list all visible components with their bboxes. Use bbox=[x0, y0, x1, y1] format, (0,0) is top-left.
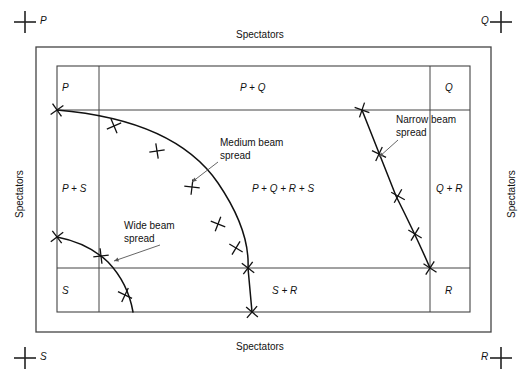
annotation-wide-beam-leader bbox=[114, 245, 160, 261]
beam-group bbox=[51, 103, 437, 318]
annotation-medium-beam-line2: spread bbox=[220, 149, 283, 162]
zone-s: S bbox=[62, 285, 69, 296]
beam-curve-narrow-marker-3 bbox=[408, 227, 421, 240]
annotation-narrow-beam-line2: spread bbox=[396, 126, 456, 139]
annotation-narrow-beam-line1: Narrow beam bbox=[396, 113, 456, 126]
corner-mark-p-label: P bbox=[40, 15, 47, 26]
annotation-wide-beam-line2: spread bbox=[124, 232, 175, 245]
beam-curve-medium-marker-2 bbox=[149, 143, 164, 158]
corner-mark-q-label: Q bbox=[481, 15, 489, 26]
annotation-narrow-beam: Narrow beamspread bbox=[396, 113, 456, 139]
cross-stroke-b bbox=[229, 241, 242, 254]
beam-curve-wide-path bbox=[57, 237, 133, 312]
zone-p: P bbox=[62, 82, 69, 93]
zone-q: Q bbox=[445, 82, 453, 93]
zone-pq: P + Q bbox=[240, 82, 265, 93]
spectators-left: Spectators bbox=[14, 170, 25, 218]
annotation-wide-beam-arrowhead bbox=[114, 258, 119, 262]
annotation-wide-beam-line1: Wide beam bbox=[124, 219, 175, 232]
zone-qr: Q + R bbox=[436, 183, 462, 194]
zone-r: R bbox=[445, 285, 452, 296]
corner-mark-r-label: R bbox=[481, 351, 488, 362]
annotation-wide-beam: Wide beamspread bbox=[124, 219, 175, 245]
zone-ps: P + S bbox=[62, 183, 86, 194]
zone-sr: S + R bbox=[272, 285, 297, 296]
beam-curve-wide bbox=[51, 231, 133, 312]
cross-stroke-b bbox=[372, 147, 386, 161]
cross-stroke-b bbox=[408, 227, 421, 240]
corner-mark-s-label: S bbox=[40, 351, 47, 362]
diagram-canvas: PP + QQP + SP + Q + R + SQ + RSS + RR Me… bbox=[0, 0, 528, 380]
spectators-right: Spectators bbox=[506, 170, 517, 218]
annotation-medium-beam-line1: Medium beam bbox=[220, 136, 283, 149]
annotation-medium-beam: Medium beamspread bbox=[220, 136, 283, 162]
beam-curve-medium-marker-4 bbox=[211, 217, 226, 232]
spectators-bottom: Spectators bbox=[236, 341, 284, 352]
spectators-top: Spectators bbox=[236, 29, 284, 40]
beam-curve-narrow-marker-1 bbox=[372, 147, 386, 161]
cross-stroke-b bbox=[149, 143, 164, 158]
beam-curve-medium-marker-5 bbox=[229, 241, 242, 254]
annotation-medium-beam-leader bbox=[192, 162, 218, 182]
cross-stroke-b bbox=[211, 217, 226, 232]
zone-pqrs: P + Q + R + S bbox=[252, 183, 314, 194]
